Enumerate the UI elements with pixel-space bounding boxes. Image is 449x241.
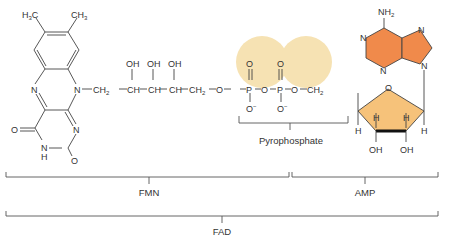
ribose-ring-o: O (385, 83, 392, 93)
p-atom-1: P (246, 85, 252, 95)
ring-n-left: N (31, 85, 38, 95)
ribose-h-4: H (421, 126, 428, 136)
fmn-label: FMN (139, 187, 160, 198)
oxo-left: O (11, 125, 18, 135)
fad-bracket (6, 211, 438, 223)
chain-oh-2: OH (147, 59, 161, 69)
chain-ch-2: CH (148, 85, 161, 95)
fad-structure-diagram: H3C CH3 N N N N H O O CH2 OH OH OH CH CH… (0, 0, 449, 241)
pyrophosphate-bracket (239, 116, 348, 130)
chain-ch-3: CH (169, 85, 182, 95)
ribose-oh-2: OH (400, 145, 414, 155)
pyrophosphate-label: Pyrophosphate (259, 135, 323, 146)
amp-label: AMP (355, 187, 376, 198)
p-double-o-2: O (277, 59, 284, 69)
adenosine-ch2: CH2 (307, 85, 324, 96)
methyl-right: CH3 (71, 10, 88, 21)
ring-n-right: N (74, 85, 81, 95)
fmn-bracket (6, 172, 289, 184)
p-o-2: O (291, 85, 298, 95)
ring-nh-h: H (41, 152, 48, 162)
adenine-n1: N (360, 33, 367, 43)
p-anion-o-1: O− (246, 103, 257, 114)
adenine-nh2: NH2 (378, 7, 395, 18)
fad-label: FAD (213, 226, 232, 237)
chain-oh-1: OH (126, 59, 140, 69)
ribose-h-3: H (403, 113, 410, 123)
ribose-oh-1: OH (369, 145, 383, 155)
ring-n-lower: N (73, 125, 80, 135)
adenine-n7: N (418, 25, 425, 35)
chain-ch2-last: CH2 (189, 85, 206, 96)
adenine-n3: N (380, 66, 387, 76)
amp-bracket (292, 172, 438, 184)
chain-ch-1: CH (127, 85, 140, 95)
chain-ch2-first: CH2 (93, 85, 110, 96)
methyl-left: H3C (22, 10, 39, 21)
chain-oh-3: OH (168, 59, 182, 69)
adenine-n9: N (421, 61, 428, 71)
ribose-h-1: H (355, 126, 362, 136)
oxo-bottom: O (71, 156, 78, 166)
p-atom-2: P (277, 85, 283, 95)
p-anion-o-2: O− (277, 103, 288, 114)
p-o-1: O (216, 85, 223, 95)
ribose-h-2: H (373, 113, 380, 123)
p-double-o-1: O (246, 59, 253, 69)
p-o-bridge: O (261, 85, 268, 95)
